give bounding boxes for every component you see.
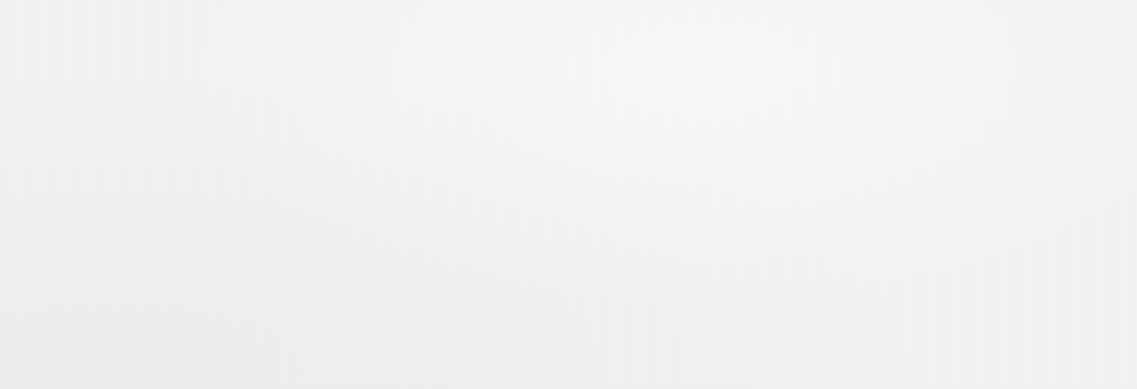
y-tick-mark-2 — [46, 266, 53, 267]
x-tick-label-2017: 2017 — [385, 342, 465, 359]
y-tick-mark-1 — [46, 298, 53, 299]
bar-2021[interactable] — [832, 156, 867, 330]
bar-2018[interactable] — [513, 158, 548, 330]
x-tick-label-2021: 2021 — [810, 342, 890, 359]
x-tick-label-2015: 2015 — [172, 342, 252, 359]
bar-2015[interactable] — [195, 131, 230, 330]
y-tick-mark-8 — [46, 75, 53, 76]
y-tick-mark-3 — [46, 234, 53, 235]
x-tick-label-2022: 2022 — [916, 342, 996, 359]
y-tick-label-5: 5 — [16, 162, 46, 179]
plot-area — [53, 43, 1115, 330]
gridline-9 — [53, 43, 1115, 44]
y-tick-label-9: 9 — [16, 35, 46, 52]
x-tick-label-2023: 2023 — [1022, 342, 1102, 359]
y-tick-mark-0 — [46, 330, 53, 331]
y-tick-label-8: 8 — [16, 66, 46, 83]
y-tick-mark-7 — [46, 107, 53, 108]
y-tick-label-7: 7 — [16, 98, 46, 115]
y-tick-mark-4 — [46, 202, 53, 203]
gridline-7 — [53, 107, 1115, 108]
x-axis: 2014201520162017201820192020202120222023 — [53, 342, 1115, 372]
y-tick-label-2: 2 — [16, 258, 46, 275]
y-tick-label-4: 4 — [16, 194, 46, 211]
y-tick-label-0: 0 — [16, 322, 46, 339]
y-axis: 0123456789 — [8, 0, 46, 389]
x-tick-label-2016: 2016 — [279, 342, 359, 359]
x-tick-label-2018: 2018 — [491, 342, 571, 359]
bar-2017[interactable] — [407, 140, 442, 330]
bar-2019[interactable] — [620, 142, 655, 330]
bar-2020[interactable] — [726, 121, 761, 330]
bar-2022[interactable] — [938, 183, 973, 330]
x-tick-label-2014: 2014 — [66, 342, 146, 359]
y-tick-label-6: 6 — [16, 130, 46, 147]
bar-chart: 0123456789 20142015201620172018201920202… — [0, 0, 1137, 389]
y-tick-mark-9 — [46, 43, 53, 44]
y-tick-label-3: 3 — [16, 226, 46, 243]
bar-2014[interactable] — [89, 155, 124, 330]
y-tick-mark-6 — [46, 139, 53, 140]
y-tick-mark-5 — [46, 171, 53, 172]
gridline-8 — [53, 75, 1115, 76]
y-tick-label-1: 1 — [16, 290, 46, 307]
gridline-0 — [53, 330, 1115, 331]
bar-2023[interactable] — [1044, 75, 1079, 330]
bar-2016[interactable] — [301, 129, 336, 330]
x-tick-label-2020: 2020 — [703, 342, 783, 359]
x-tick-label-2019: 2019 — [597, 342, 677, 359]
